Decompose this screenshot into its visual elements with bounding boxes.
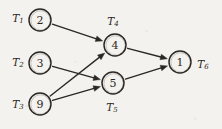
node-9-value: 9 <box>37 98 44 111</box>
node-3[interactable]: 3 <box>29 52 51 74</box>
diagram-canvas: 239451 T1T2T3T4T5T6 <box>0 0 222 129</box>
node-4-value: 4 <box>112 39 119 52</box>
node-1-value: 1 <box>177 56 184 69</box>
task-label-T5: T5 <box>106 101 118 114</box>
node-5[interactable]: 5 <box>102 72 124 94</box>
edge-4-to-1 <box>128 48 168 59</box>
task-label-T4: T4 <box>107 15 118 28</box>
edge-2-to-4-arrowhead <box>95 36 103 42</box>
edge-9-to-5-line <box>52 88 94 100</box>
edge-5-to-1 <box>125 65 167 79</box>
edge-4-to-1-arrowhead <box>160 54 168 60</box>
node-1[interactable]: 1 <box>169 51 191 73</box>
task-label-T1: T1 <box>12 12 23 25</box>
node-3-value: 3 <box>37 57 44 70</box>
node-4[interactable]: 4 <box>104 34 126 56</box>
task-label-T3: T3 <box>12 98 24 111</box>
node-2-value: 2 <box>37 14 44 27</box>
edge-5-to-1-arrowhead <box>160 65 168 71</box>
edge-3-to-5 <box>53 66 101 80</box>
edge-9-to-4-line <box>50 57 100 96</box>
edge-3-to-5-arrowhead <box>93 75 101 81</box>
node-9[interactable]: 9 <box>29 93 51 115</box>
task-graph-svg: 239451 T1T2T3T4T5T6 <box>0 0 222 129</box>
edge-9-to-5-arrowhead <box>93 86 101 92</box>
task-label-T2: T2 <box>12 56 24 69</box>
edge-3-to-5-line <box>53 66 95 78</box>
node-5-value: 5 <box>110 77 117 90</box>
edge-2-to-4 <box>52 24 102 41</box>
edge-5-to-1-line <box>125 68 162 79</box>
task-label-T6: T6 <box>197 58 209 71</box>
edge-2-to-4-line <box>52 24 97 39</box>
node-2[interactable]: 2 <box>29 9 51 31</box>
edge-4-to-1-line <box>128 48 162 57</box>
